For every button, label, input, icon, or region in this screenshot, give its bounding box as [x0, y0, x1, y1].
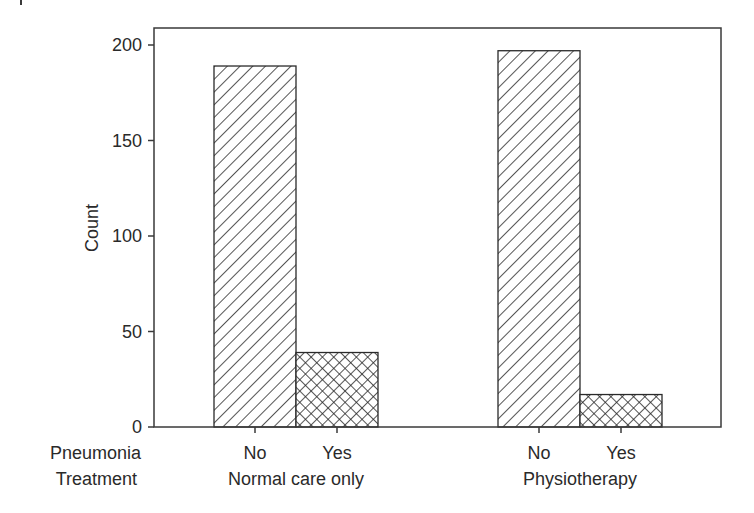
- artifact-mark: [20, 0, 22, 5]
- y-tick-label: 50: [122, 322, 142, 342]
- bar-normal-care-no: [214, 66, 296, 427]
- y-axis-title: Count: [82, 204, 102, 252]
- bar-chart: 050100150200 NoYesNormal care onlyNoYesP…: [0, 0, 754, 513]
- y-tick-label: 200: [112, 35, 142, 55]
- group-label: Physiotherapy: [523, 469, 637, 489]
- x-tick-label: Yes: [322, 443, 351, 463]
- x-tick-label: No: [527, 443, 550, 463]
- row-label-treatment: Treatment: [56, 469, 137, 489]
- y-tick-label: 0: [132, 417, 142, 437]
- row-label-pneumonia: Pneumonia: [50, 443, 142, 463]
- y-tick-label: 150: [112, 131, 142, 151]
- bar-physiotherapy-yes: [580, 395, 662, 427]
- group-label: Normal care only: [228, 469, 364, 489]
- bar-physiotherapy-no: [498, 51, 580, 427]
- bar-normal-care-yes: [296, 353, 378, 427]
- x-tick-label: No: [243, 443, 266, 463]
- x-tick-label: Yes: [606, 443, 635, 463]
- y-tick-label: 100: [112, 226, 142, 246]
